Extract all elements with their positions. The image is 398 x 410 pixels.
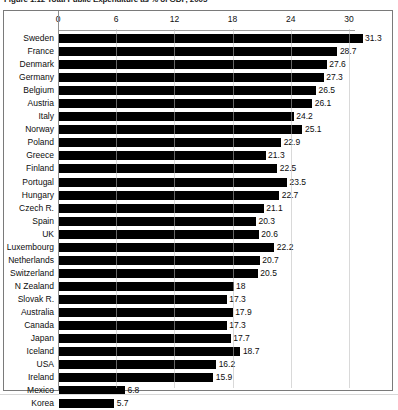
bar-row: Spain20.3 <box>4 215 392 228</box>
bar <box>59 269 258 278</box>
bar <box>59 191 279 200</box>
bar-row: Hungary22.7 <box>4 189 392 202</box>
bar-value-label: 22.5 <box>277 162 296 175</box>
bar <box>59 360 216 369</box>
bar-row: Switzerland20.5 <box>4 267 392 280</box>
bar <box>59 164 277 173</box>
category-label: Portugal <box>4 176 58 189</box>
figure-title: Figure 1.12 Total Public Expenditure as … <box>4 0 207 5</box>
bar-value-label: 28.7 <box>337 45 356 58</box>
bar <box>59 34 363 43</box>
x-axis-tick-label: 30 <box>344 14 353 24</box>
bar-row: Iceland18.7 <box>4 345 392 358</box>
bar <box>59 125 302 134</box>
bar <box>59 230 259 239</box>
category-label: Poland <box>4 136 58 149</box>
category-label: Austria <box>4 97 58 110</box>
bar <box>59 373 213 382</box>
bar-row: Italy24.2 <box>4 110 392 123</box>
bar-value-label: 25.1 <box>302 123 321 136</box>
category-label: Italy <box>4 110 58 123</box>
x-axis-baseline <box>58 30 355 31</box>
bar-row: Luxembourg22.2 <box>4 241 392 254</box>
scan-edge-artifact <box>0 394 398 395</box>
bar-row: Netherlands20.7 <box>4 254 392 267</box>
category-label: N Zealand <box>4 280 58 293</box>
category-label: Hungary <box>4 189 58 202</box>
x-gridline <box>291 29 292 388</box>
bar-value-label: 17.3 <box>227 319 246 332</box>
category-label: Switzerland <box>4 267 58 280</box>
category-label: Czech R. <box>4 202 58 215</box>
bar-value-label: 31.3 <box>363 32 382 45</box>
bar-row: Norway25.1 <box>4 123 392 136</box>
bar-row: Czech R.21.1 <box>4 202 392 215</box>
category-label: UK <box>4 228 58 241</box>
bar <box>59 256 260 265</box>
category-label: Denmark <box>4 58 58 71</box>
bar-row: N Zealand18 <box>4 280 392 293</box>
bar-value-label: 20.5 <box>258 267 277 280</box>
bar-row: Slovak R.17.3 <box>4 293 392 306</box>
bar <box>59 308 233 317</box>
bar-row: UK20.6 <box>4 228 392 241</box>
category-label: Luxembourg <box>4 241 58 254</box>
bar <box>59 86 316 95</box>
bar-value-label: 20.7 <box>260 254 279 267</box>
x-axis-tick-label: 12 <box>170 14 179 24</box>
category-label: Greece <box>4 149 58 162</box>
bar-row: Sweden31.3 <box>4 32 392 45</box>
bar-value-label: 17.3 <box>227 293 246 306</box>
x-gridline <box>174 29 175 388</box>
bar-row: Belgium26.5 <box>4 84 392 97</box>
category-label: Mexico <box>4 384 58 397</box>
bar <box>59 112 294 121</box>
bar-row: Finland22.5 <box>4 162 392 175</box>
category-label: USA <box>4 358 58 371</box>
bar <box>59 217 256 226</box>
bar <box>59 321 227 330</box>
bar-row: Poland22.9 <box>4 136 392 149</box>
category-label: Finland <box>4 162 58 175</box>
bar-value-label: 22.7 <box>279 189 298 202</box>
bar-row: Mexico6.8 <box>4 384 392 397</box>
bar-row: Germany27.3 <box>4 71 392 84</box>
bar-value-label: 23.5 <box>287 176 306 189</box>
bar-row: Australia17.9 <box>4 306 392 319</box>
bar-value-label: 18 <box>234 280 246 293</box>
bar <box>59 334 231 343</box>
bar-value-label: 27.6 <box>327 58 346 71</box>
bar-row: Canada17.3 <box>4 319 392 332</box>
bar-value-label: 18.7 <box>240 345 259 358</box>
x-axis-tick-label: 6 <box>114 14 119 24</box>
category-label: Spain <box>4 215 58 228</box>
bar-value-label: 6.8 <box>125 384 139 397</box>
bar <box>59 282 234 291</box>
x-gridline <box>116 29 117 388</box>
category-label: Iceland <box>4 345 58 358</box>
bar-row: Austria26.1 <box>4 97 392 110</box>
bar-row: Portugal23.5 <box>4 176 392 189</box>
category-label: Ireland <box>4 371 58 384</box>
bar-value-label: 21.1 <box>264 202 283 215</box>
category-label: Australia <box>4 306 58 319</box>
x-axis-tick-label: 18 <box>228 14 237 24</box>
bar <box>59 151 266 160</box>
bar-value-label: 26.5 <box>316 84 335 97</box>
bar-row: Greece21.3 <box>4 149 392 162</box>
bar-row: Japan17.7 <box>4 332 392 345</box>
bar-value-label: 24.2 <box>294 110 313 123</box>
category-label: Germany <box>4 71 58 84</box>
category-label: Netherlands <box>4 254 58 267</box>
bar-value-label: 27.3 <box>324 71 343 84</box>
bar-value-label: 15.9 <box>213 371 232 384</box>
bar <box>59 347 240 356</box>
bar-value-label: 17.9 <box>233 306 252 319</box>
category-label: Japan <box>4 332 58 345</box>
x-axis-tick-label: 24 <box>286 14 295 24</box>
chart-panel: 0612182430 Sweden31.3France28.7Denmark27… <box>3 10 393 391</box>
bar <box>59 60 327 69</box>
category-label: Canada <box>4 319 58 332</box>
category-label: Norway <box>4 123 58 136</box>
bar-row: France28.7 <box>4 45 392 58</box>
